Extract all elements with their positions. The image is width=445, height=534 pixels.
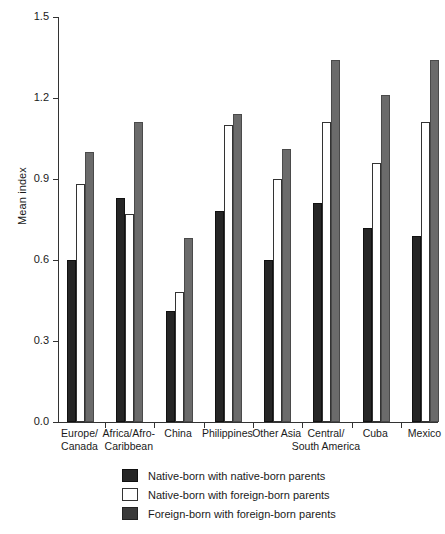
bar-group — [264, 18, 291, 422]
bar-native-foreign — [224, 125, 233, 422]
y-tick-label: 1.2 — [34, 91, 49, 103]
bar-foreign-foreign — [430, 60, 439, 422]
bar-native-foreign — [175, 292, 184, 422]
bar-foreign-foreign — [282, 149, 291, 422]
legend-item: Foreign-born with foreign-born parents — [122, 504, 422, 523]
bar-native-native — [313, 203, 322, 422]
y-tick-label: 0.9 — [34, 172, 49, 184]
bar-foreign-foreign — [85, 152, 94, 422]
bar-native-native — [363, 228, 372, 422]
bar-group — [313, 18, 340, 422]
bar-native-foreign — [372, 163, 381, 422]
bar-chart-figure: Mean index 0.00.30.60.91.21.5 Europe/Can… — [0, 0, 445, 534]
y-tick-label: 0.0 — [34, 415, 49, 427]
x-tick-label-line1: Mexico — [408, 427, 441, 439]
x-tick-label: Mexico — [380, 427, 445, 440]
chart-legend: Native-born with native-born parentsNati… — [122, 466, 422, 523]
y-tick-label: 0.3 — [34, 334, 49, 346]
bar-native-native — [116, 198, 125, 422]
y-axis-title: Mean index — [16, 136, 28, 256]
bar-foreign-foreign — [134, 122, 143, 422]
bar-native-native — [412, 236, 421, 422]
bar-native-native — [67, 260, 76, 422]
bar-native-native — [215, 211, 224, 422]
x-axis-tick-labels: Europe/CanadaAfrica/Afro-CaribbeanChinaP… — [58, 427, 442, 461]
bar-groups — [59, 18, 438, 422]
y-tick-label: 1.5 — [34, 10, 49, 22]
bar-native-foreign — [125, 214, 134, 422]
plot-area: 0.00.30.60.91.21.5 — [58, 18, 438, 423]
bar-foreign-foreign — [381, 95, 390, 422]
bar-foreign-foreign — [184, 238, 193, 422]
bar-group — [412, 18, 439, 422]
legend-swatch-native-native — [122, 469, 138, 482]
bar-group — [67, 18, 94, 422]
bar-foreign-foreign — [331, 60, 340, 422]
legend-label: Foreign-born with foreign-born parents — [148, 508, 336, 520]
bar-group — [215, 18, 242, 422]
bar-group — [363, 18, 390, 422]
legend-item: Native-born with native-born parents — [122, 466, 422, 485]
bar-group — [116, 18, 143, 422]
x-tick-label-line2: South America — [281, 440, 371, 453]
bar-native-native — [166, 311, 175, 422]
legend-item: Native-born with foreign-born parents — [122, 485, 422, 504]
bar-group — [166, 18, 193, 422]
legend-label: Native-born with native-born parents — [148, 470, 325, 482]
y-tick-label: 0.6 — [34, 253, 49, 265]
legend-swatch-foreign-foreign — [122, 507, 138, 520]
bar-foreign-foreign — [233, 114, 242, 422]
x-tick-label-line2: Caribbean — [84, 440, 174, 453]
bar-native-foreign — [322, 122, 331, 422]
bar-native-native — [264, 260, 273, 422]
bar-native-foreign — [273, 179, 282, 422]
legend-label: Native-born with foreign-born parents — [148, 489, 330, 501]
legend-swatch-native-foreign — [122, 488, 138, 501]
bar-native-foreign — [76, 184, 85, 422]
bar-native-foreign — [421, 122, 430, 422]
